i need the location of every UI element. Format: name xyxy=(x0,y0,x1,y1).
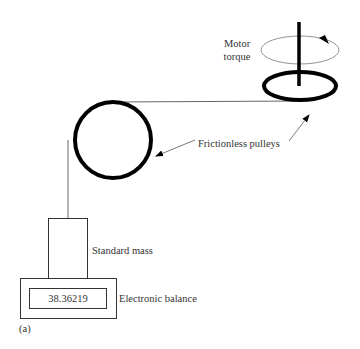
panel-label: (a) xyxy=(19,322,31,335)
pulley-large xyxy=(75,102,151,178)
torque-arrowhead-icon xyxy=(319,35,329,44)
label-electronic-balance: Electronic balance xyxy=(119,292,197,305)
standard-mass-block xyxy=(49,219,88,279)
label-motor-torque: Motor torque xyxy=(217,37,257,63)
label-motor-torque-line1: Motor xyxy=(217,37,257,50)
label-frictionless-pulleys: Frictionless pulleys xyxy=(198,137,280,150)
label-standard-mass: Standard mass xyxy=(92,244,153,257)
pointer-arrow-large-pulley xyxy=(156,140,195,156)
pointer-arrow-motor-pulley xyxy=(289,115,309,141)
string-horizontal xyxy=(113,101,302,102)
label-motor-torque-line2: torque xyxy=(217,50,257,63)
balance-reading: 38.36219 xyxy=(30,292,106,305)
